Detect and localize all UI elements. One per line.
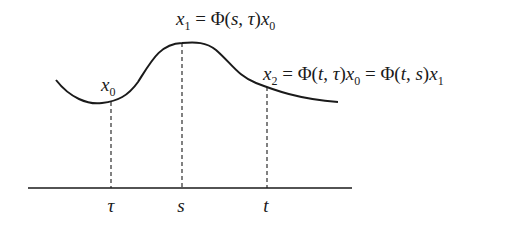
state-transition-figure: x0 x1 = Φ(s, τ)x0 x2 = Φ(t, τ)x0 = Φ(t, … <box>0 0 510 225</box>
label-x0: x0 <box>100 74 115 99</box>
equation-x1: x1 = Φ(s, τ)x0 <box>175 8 275 33</box>
tick-label-s: s <box>177 195 184 216</box>
tick-label-tau: τ <box>108 195 116 216</box>
tick-label-t: t <box>263 195 269 216</box>
equation-x2: x2 = Φ(t, τ)x0 = Φ(t, s)x1 <box>262 63 444 88</box>
